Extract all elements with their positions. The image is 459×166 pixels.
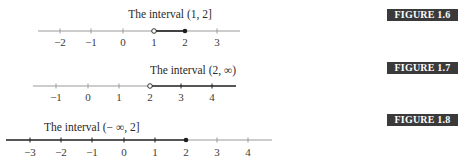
tick-label: 1	[152, 146, 158, 158]
tick-label: −1	[86, 146, 98, 158]
number-line-1-6: The interval (1, 2] −2 −1 0 1 2 3	[38, 8, 240, 48]
open-endpoint-icon	[148, 84, 153, 89]
caption-1-7: The interval (2, ∞)	[150, 64, 236, 77]
open-endpoint-icon	[152, 29, 157, 34]
tick-label: −1	[50, 91, 62, 103]
tick-label: 4	[245, 146, 251, 158]
tick-label: 2	[182, 36, 188, 48]
tick-label: 2	[183, 146, 189, 158]
tick-label: −3	[24, 146, 36, 158]
number-line-figures: The interval (1, 2] −2 −1 0 1 2 3 The in…	[0, 0, 459, 166]
figure-label-1-8: FIGURE 1.8	[387, 114, 458, 126]
figure-label-1-7: FIGURE 1.7	[387, 62, 458, 74]
tick-label: 1	[116, 91, 122, 103]
closed-endpoint-icon	[183, 29, 188, 34]
tick-label: −1	[85, 36, 97, 48]
figure-label-1-6: FIGURE 1.6	[387, 9, 458, 21]
caption-1-6: The interval (1, 2]	[128, 8, 212, 21]
number-line-1-8: The interval (− ∞, 2] −3 −2 −1 0 1 2 3 4	[6, 121, 272, 158]
tick-label: 3	[214, 146, 220, 158]
tick-label: −2	[55, 146, 67, 158]
tick-label: 3	[214, 36, 220, 48]
tick-label: 4	[209, 91, 215, 103]
caption-1-8: The interval (− ∞, 2]	[44, 121, 139, 134]
tick-label: 0	[121, 146, 127, 158]
tick-label: −2	[54, 36, 66, 48]
tick-label: 3	[178, 91, 184, 103]
closed-endpoint-icon	[184, 138, 189, 143]
tick-label: 0	[85, 91, 91, 103]
tick-label: 2	[147, 91, 153, 103]
number-line-1-7: The interval (2, ∞) −1 0 1 2 3 4	[33, 64, 236, 103]
tick-label: 0	[120, 36, 126, 48]
tick-label: 1	[151, 36, 157, 48]
